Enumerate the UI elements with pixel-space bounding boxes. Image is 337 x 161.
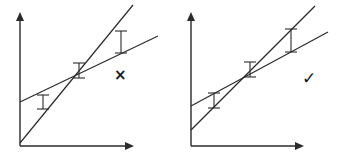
- checkmark-icon: ✓: [302, 70, 316, 87]
- panel-incorrect-fit: [16, 5, 158, 150]
- error-bar: [115, 31, 127, 53]
- shallow-line: [20, 36, 158, 102]
- x-axis-arrow-icon: [295, 142, 304, 150]
- error-bar: [285, 29, 297, 52]
- y-axis-arrow-icon: [187, 12, 195, 21]
- y-axis-arrow-icon: [16, 12, 24, 21]
- steep-line: [191, 6, 315, 130]
- error-bar-line-fit-diagram: [0, 0, 337, 161]
- x-axis-arrow-icon: [125, 142, 134, 150]
- error-bar: [37, 95, 49, 109]
- cross-icon: ×: [114, 68, 127, 83]
